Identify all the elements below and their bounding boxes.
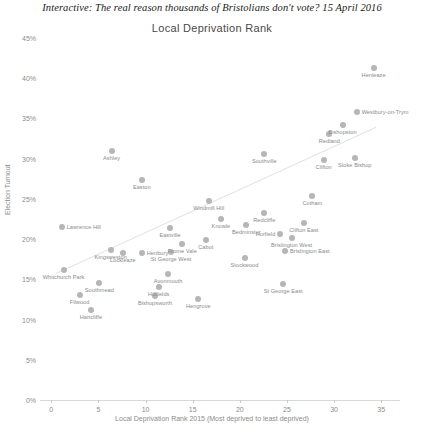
y-axis-label: Election Turnout (4, 164, 11, 215)
data-point-label: Bishopsworth (138, 300, 172, 306)
data-point[interactable] (340, 122, 346, 128)
data-point[interactable] (96, 280, 102, 286)
data-point[interactable] (195, 296, 201, 302)
x-tick-label: 0 (49, 406, 53, 413)
data-point[interactable] (61, 267, 67, 273)
data-point-label: Hengrove (186, 303, 211, 309)
x-axis-line (40, 400, 400, 401)
data-point-label: Stoke Bishop (338, 162, 372, 168)
x-tick-label: 10 (142, 406, 150, 413)
data-point[interactable] (243, 222, 249, 228)
x-tick-mark (240, 400, 241, 403)
y-tick-label: 25% (22, 195, 36, 202)
data-point-label: Windmill Hill (193, 205, 224, 211)
headline: Interactive: The real reason thousands o… (0, 2, 424, 13)
data-point-label: Cabot (198, 244, 213, 250)
data-point[interactable] (280, 281, 286, 287)
chart-page: Interactive: The real reason thousands o… (0, 0, 424, 432)
data-point[interactable] (289, 235, 295, 241)
data-point-label: Bishopston (328, 129, 356, 135)
data-point[interactable] (206, 198, 212, 204)
data-point[interactable] (352, 155, 358, 161)
data-point[interactable] (108, 247, 114, 253)
data-point-label: Whitchurch Park (43, 274, 85, 280)
y-tick-label: 35% (22, 115, 36, 122)
x-tick-mark (193, 400, 194, 403)
data-point-label: Redland (319, 138, 340, 144)
x-tick-mark (381, 400, 382, 403)
data-point-label: Filwood (70, 299, 90, 305)
x-axis-label: Local Deprivation Rank 2015 (Most depriv… (0, 415, 424, 422)
data-point[interactable] (156, 284, 162, 290)
data-point[interactable] (282, 248, 288, 254)
x-tick-label: 20 (236, 406, 244, 413)
chart-title: Local Deprivation Rank (0, 22, 424, 34)
x-tick-label: 35 (377, 406, 385, 413)
x-tick-mark (334, 400, 335, 403)
data-point[interactable] (277, 231, 283, 237)
data-point-label: Frome Vale (168, 248, 197, 254)
data-point[interactable] (261, 151, 267, 157)
data-point[interactable] (167, 225, 173, 231)
y-tick-label: 30% (22, 155, 36, 162)
data-point-label: Cotham (302, 200, 322, 206)
y-tick-label: 15% (22, 276, 36, 283)
data-point[interactable] (165, 271, 171, 277)
data-point-label: Stockwood (231, 262, 259, 268)
data-point-label: Southmead (85, 287, 114, 293)
data-point[interactable] (261, 210, 267, 216)
x-tick-label: 15 (189, 406, 197, 413)
data-point-label: Ashley (103, 155, 120, 161)
data-point[interactable] (203, 237, 209, 243)
data-point[interactable] (242, 255, 248, 261)
data-point-label: Eastville (159, 232, 180, 238)
data-point[interactable] (301, 220, 307, 226)
x-tick-label: 30 (330, 406, 338, 413)
x-tick-mark (287, 400, 288, 403)
data-point[interactable] (179, 241, 185, 247)
data-point-label: Horfield (256, 231, 276, 237)
data-point-label: Brislington West (271, 242, 312, 248)
data-point-label: Avonmouth (154, 278, 183, 284)
data-point[interactable] (354, 109, 360, 115)
data-point[interactable] (77, 292, 83, 298)
data-point[interactable] (88, 307, 94, 313)
data-point-label: Lockleaze (110, 257, 136, 263)
data-point-label: Westbury-on-Trym (362, 109, 409, 115)
data-point-label: St George East (264, 288, 303, 294)
data-point-label: Hillfields (148, 291, 169, 297)
data-point-label: Knowle (212, 223, 231, 229)
data-point-label: Southville (252, 158, 277, 164)
y-tick-label: 20% (22, 236, 36, 243)
data-point[interactable] (218, 216, 224, 222)
data-point-label: Easton (133, 184, 151, 190)
data-point[interactable] (371, 65, 377, 71)
data-point[interactable] (120, 250, 126, 256)
x-tick-label: 25 (283, 406, 291, 413)
y-tick-label: 10% (22, 316, 36, 323)
data-point-label: Henleaze (362, 72, 386, 78)
x-tick-mark (51, 400, 52, 403)
data-point[interactable] (321, 157, 327, 163)
x-tick-label: 5 (96, 406, 100, 413)
data-point-label: Clifton (316, 164, 332, 170)
data-point-label: Redcliffe (253, 217, 275, 223)
plot-area: 0%5%10%15%20%25%30%35%40%45% 05101520253… (40, 38, 400, 400)
data-point-label: St George West (151, 256, 191, 262)
data-point-label: Brislington East (290, 248, 330, 254)
x-tick-mark (98, 400, 99, 403)
y-tick-label: 45% (22, 35, 36, 42)
data-point[interactable] (109, 148, 115, 154)
data-point-label: Hartcliffe (80, 314, 102, 320)
y-tick-label: 5% (26, 356, 36, 363)
data-point-label: Clifton East (289, 227, 318, 233)
data-point-label: Lawrence Hill (67, 224, 101, 230)
data-point[interactable] (309, 193, 315, 199)
data-point[interactable] (59, 224, 65, 230)
data-point[interactable] (139, 250, 145, 256)
data-point-label: Henbury (147, 250, 169, 256)
x-tick-mark (146, 400, 147, 403)
y-tick-label: 40% (22, 75, 36, 82)
data-point[interactable] (139, 177, 145, 183)
y-tick-label: 0% (26, 397, 36, 404)
